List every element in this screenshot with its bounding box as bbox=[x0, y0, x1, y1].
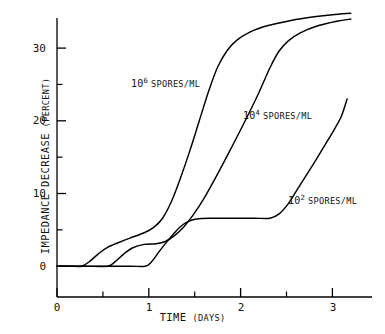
series-label-10e2-exponent: 2 bbox=[300, 193, 305, 202]
y-axis-title-units: (PERCENT) bbox=[41, 78, 51, 127]
series-label-10e2-base: 10 bbox=[288, 195, 300, 206]
data-curve-10-6-spores-ml bbox=[57, 13, 351, 266]
axis-lines bbox=[57, 18, 372, 297]
x-axis-title: TIME(DAYS) bbox=[0, 311, 385, 323]
chart-figure: 0 10 20 30 0 1 2 3 TIME(DAYS) IMPEDANCE … bbox=[0, 0, 385, 334]
chart-plot-area bbox=[0, 0, 385, 334]
x-axis-minor-ticks bbox=[103, 292, 287, 298]
series-label-10e6-exponent: 6 bbox=[143, 76, 148, 85]
y-axis-title-main: IMPEDANCE DECREASE bbox=[39, 133, 51, 254]
series-label-10e2-unit: SPORES/ML bbox=[308, 196, 357, 206]
series-label-10e4-unit: SPORES/ML bbox=[263, 111, 312, 121]
series-label-10e4: 104SPORES/ML bbox=[243, 108, 312, 121]
series-label-10e6-unit: SPORES/ML bbox=[151, 79, 200, 89]
y-axis-minor-ticks bbox=[57, 84, 63, 229]
y-axis-title: IMPEDANCE DECREASE(PERCENT) bbox=[39, 41, 51, 291]
data-curve-10-4-spores-ml bbox=[57, 19, 351, 267]
series-label-10e4-exponent: 4 bbox=[255, 108, 260, 117]
series-label-10e4-base: 10 bbox=[243, 110, 255, 121]
series-label-10e6: 106SPORES/ML bbox=[131, 76, 200, 89]
series-label-10e6-base: 10 bbox=[131, 78, 143, 89]
x-axis-title-main: TIME bbox=[160, 311, 187, 323]
x-axis-title-units: (DAYS) bbox=[193, 313, 226, 323]
series-label-10e2: 102SPORES/ML bbox=[288, 193, 357, 206]
data-curve-10-2-spores-ml bbox=[57, 99, 347, 267]
data-curves bbox=[57, 13, 351, 266]
